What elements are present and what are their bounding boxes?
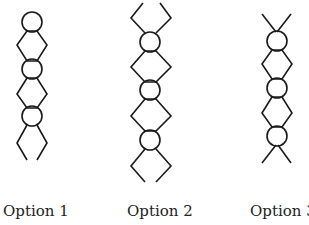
option-2-circle-1: [140, 32, 160, 52]
option-3-bottom-leg-left: [262, 145, 276, 163]
option-1-circle-3: [22, 106, 42, 126]
option-3-top-leg-left: [262, 14, 276, 32]
option-1-circle-2: [22, 59, 42, 79]
option-1-circle-1: [22, 12, 42, 32]
option-1-diamond-2: [17, 78, 47, 108]
option-2-circle-2: [140, 80, 160, 100]
option-2-top-left: [131, 3, 145, 33]
option-3-circle-3: [267, 126, 287, 146]
option-1-open-left: [17, 125, 27, 160]
option-3-circle-2: [267, 78, 287, 98]
option-3-bottom-leg-right: [278, 145, 291, 163]
option-2-diamond-1: [131, 51, 171, 82]
option-3-chain: [262, 14, 292, 163]
option-1-chain: [17, 12, 47, 160]
option-1-open-right: [37, 125, 47, 160]
option-3-diamond-2: [262, 97, 292, 127]
option-2-label: Option 2: [127, 202, 193, 220]
option-2-chain: [131, 3, 171, 182]
option-2-top-right: [156, 3, 171, 33]
option-3-label: Option 3: [250, 202, 309, 220]
option-2-circle-3: [140, 130, 160, 150]
option-2-bottom-right: [156, 149, 171, 182]
option-2-diamond-2: [131, 99, 171, 131]
option-3-top-leg-right: [277, 14, 291, 32]
option-1-label: Option 1: [3, 202, 69, 220]
option-1-diamond-1: [17, 31, 47, 61]
option-3-diamond-1: [262, 50, 292, 79]
option-2-bottom-left: [131, 149, 145, 182]
option-3-circle-1: [267, 31, 287, 51]
options-diagram: [0, 0, 309, 225]
